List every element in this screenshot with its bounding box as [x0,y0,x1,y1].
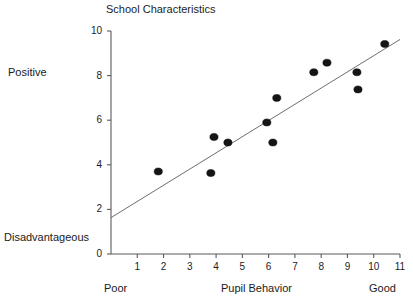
data-point [353,69,361,76]
data-point [210,133,218,140]
data-point [273,94,281,101]
y-tick-label: 2 [84,204,102,214]
data-point [381,40,389,47]
y-tick-label: 8 [84,71,102,81]
plot-area [0,0,413,305]
x-tick-label: 3 [182,262,198,272]
data-point [310,69,318,76]
trendline [111,39,400,217]
data-point [154,168,162,175]
y-tick-label: 0 [84,249,102,259]
data-point [224,139,232,146]
x-tick-label: 4 [208,262,224,272]
data-point [269,139,277,146]
y-tick-label: 4 [84,160,102,170]
x-tick-label: 6 [261,262,277,272]
x-tick-label: 10 [366,262,382,272]
x-tick-label: 5 [234,262,250,272]
data-point [207,170,215,177]
data-points-group [154,40,389,176]
x-tick-label: 1 [129,262,145,272]
axes-group [107,31,400,258]
y-tick-label: 6 [84,115,102,125]
x-tick-label: 2 [156,262,172,272]
x-tick-label: 8 [313,262,329,272]
data-point [354,86,362,93]
data-point [263,119,271,126]
data-point [323,59,331,66]
y-tick-label: 10 [84,26,102,36]
x-tick-label: 9 [339,262,355,272]
x-tick-label: 11 [392,262,408,272]
scatter-chart-figure: School Characteristics Positive Disadvan… [0,0,413,305]
x-tick-label: 7 [287,262,303,272]
trendline-segment [111,39,400,217]
